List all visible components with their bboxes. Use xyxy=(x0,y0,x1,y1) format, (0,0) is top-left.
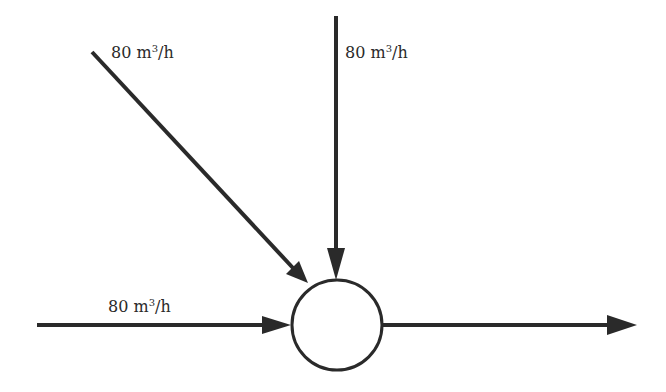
flow-unit: m xyxy=(133,297,148,316)
flow-value: 80 xyxy=(345,43,365,62)
diagonal-flow-label: 80 m3/h xyxy=(111,43,174,62)
flow-unit: m xyxy=(136,43,151,62)
horizontal-flow-label: 80 m3/h xyxy=(108,297,171,316)
vertical-inflow-arrow xyxy=(327,16,345,280)
horizontal-inflow-arrow xyxy=(37,316,291,334)
flow-diagram xyxy=(0,0,666,392)
vertical-flow-label: 80 m3/h xyxy=(345,43,408,62)
flow-unit-tail: /h xyxy=(155,297,171,316)
diagonal-inflow-arrow xyxy=(92,52,308,283)
flow-unit-tail: /h xyxy=(392,43,408,62)
junction-node xyxy=(292,280,382,370)
flow-value: 80 xyxy=(108,297,128,316)
flow-unit: m xyxy=(370,43,385,62)
flow-value: 80 xyxy=(111,43,131,62)
outflow-arrow xyxy=(383,315,637,335)
flow-unit-tail: /h xyxy=(158,43,174,62)
